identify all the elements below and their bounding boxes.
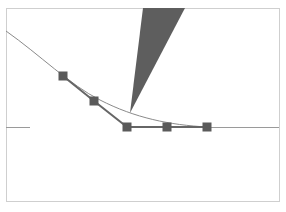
square-marker xyxy=(123,123,132,132)
square-marker xyxy=(203,123,212,132)
diagram-svg xyxy=(0,0,286,212)
smooth-curve xyxy=(6,31,207,127)
cone-wedge-shape xyxy=(130,8,185,113)
square-marker xyxy=(163,123,172,132)
square-marker xyxy=(90,97,99,106)
diagram-canvas xyxy=(0,0,286,212)
square-marker xyxy=(59,72,68,81)
